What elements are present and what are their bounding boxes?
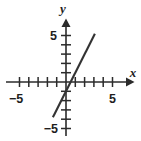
y-axis-name-label: y <box>58 1 66 16</box>
coordinate-plane-figure: −5 5 5 −5 y x <box>0 0 141 141</box>
graph-canvas: −5 5 5 −5 y x <box>0 0 141 141</box>
y-axis-label-positive-five: 5 <box>50 29 57 43</box>
x-axis-label-positive-five: 5 <box>109 92 116 106</box>
x-axis-label-negative-five: −5 <box>9 92 23 106</box>
y-axis-arrow-icon <box>62 19 71 28</box>
x-axis-name-label: x <box>129 65 137 80</box>
y-axis-label-negative-five: −5 <box>44 122 58 136</box>
plotted-line <box>53 34 95 118</box>
